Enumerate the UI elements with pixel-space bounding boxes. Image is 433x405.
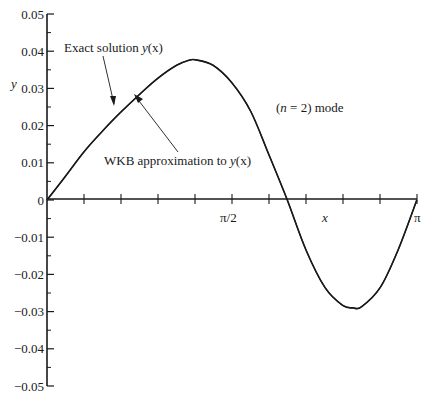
y-tick-label: 0.02	[21, 118, 44, 133]
chart-canvas: 0.050.040.030.020.010−0.01−0.02−0.03−0.0…	[0, 0, 433, 405]
x-tick-label-pi: π	[414, 210, 421, 225]
mode-annotation: (n = 2) mode	[276, 100, 344, 115]
x-axis-label: x	[321, 210, 328, 225]
y-axis-ticks	[47, 14, 54, 386]
y-tick-label: −0.05	[14, 379, 44, 394]
y-tick-label: −0.03	[14, 304, 44, 319]
x-tick-label-half-pi: π/2	[220, 210, 237, 225]
exact-solution-arrowhead	[110, 96, 116, 106]
y-tick-label: 0.01	[21, 155, 44, 170]
y-axis-label: y	[9, 76, 17, 91]
exact-solution-curve	[47, 59, 417, 308]
y-tick-label: 0.03	[21, 81, 44, 96]
wkb-approximation-curve	[47, 59, 417, 308]
exact-solution-annotation: Exact solution y(x)	[64, 40, 163, 55]
wkb-arrow	[136, 97, 178, 152]
y-tick-label: −0.01	[14, 230, 44, 245]
y-axis-tick-labels: 0.050.040.030.020.010−0.01−0.02−0.03−0.0…	[14, 7, 45, 394]
y-tick-label: −0.02	[14, 267, 44, 282]
y-tick-label: 0.05	[21, 7, 44, 22]
y-tick-label: −0.04	[14, 341, 45, 356]
y-tick-label: 0	[38, 193, 45, 208]
wkb-annotation: WKB approximation to y(x)	[104, 153, 251, 168]
y-tick-label: 0.04	[21, 44, 44, 59]
